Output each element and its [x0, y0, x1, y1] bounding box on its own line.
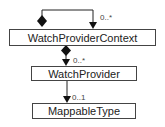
composition-diamond-icon: [61, 45, 71, 56]
class-name: MappableType: [48, 105, 120, 117]
arrowhead-icon: [62, 59, 70, 66]
provider-to-mappable-association: [63, 80, 71, 103]
class-name: WatchProvider: [48, 68, 120, 80]
arrowhead-icon: [63, 96, 71, 103]
class-mappable-type[interactable]: MappableType: [32, 103, 136, 119]
class-name: WatchProviderContext: [28, 32, 138, 44]
composition-diamond-icon: [37, 15, 47, 27]
context-to-provider-association: [61, 45, 71, 66]
multiplicity-label: 0..1: [72, 94, 85, 102]
class-watch-provider-context[interactable]: WatchProviderContext: [9, 29, 156, 46]
class-watch-provider[interactable]: WatchProvider: [31, 66, 137, 81]
multiplicity-label: 0..*: [100, 14, 112, 22]
multiplicity-label: 0..*: [73, 57, 85, 65]
self-association: [37, 10, 97, 29]
arrowhead-icon: [89, 22, 97, 29]
